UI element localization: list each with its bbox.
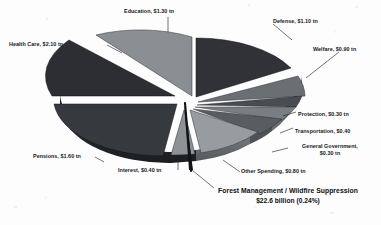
scan-speck — [355, 6, 358, 8]
label-protection: Protection, $0.30 tn — [298, 111, 349, 118]
scan-speck — [330, 212, 334, 214]
scan-speck — [14, 206, 17, 208]
leader-pensions — [95, 157, 104, 162]
annotation-line2: $22.6 billion (0.24%) — [196, 196, 380, 206]
scan-speck — [248, 4, 250, 6]
leader-general-government — [272, 148, 288, 152]
leader-other-spending — [223, 160, 240, 172]
slice-pensions[interactable] — [54, 104, 177, 156]
label-defense: Defense, $1.10 tn — [273, 18, 318, 25]
annotation-wildfire-suppression: Forest Management / Wildfire Suppression… — [196, 186, 380, 205]
pie-top-faces — [45, 30, 305, 171]
label-general-government-line2: $0.30 tn — [320, 150, 340, 156]
label-interest: Interest, $0.40 tn — [118, 167, 161, 174]
slice-interest[interactable] — [171, 110, 195, 155]
scan-speck — [46, 18, 48, 20]
leader-defense — [273, 24, 292, 40]
label-welfare: Welfare, $0.90 tn — [313, 46, 356, 53]
label-general-government-line1: General Government, — [302, 143, 358, 149]
annotation-line1: Forest Management / Wildfire Suppression — [196, 186, 380, 196]
label-other-spending: Other Spending, $0.80 tn — [241, 168, 306, 175]
label-transportation: Transportation, $0.40 — [295, 128, 350, 135]
leader-transportation — [280, 128, 293, 133]
label-education: Education, $1.30 tn — [124, 8, 174, 15]
label-general-government: General Government, $0.30 tn — [288, 143, 372, 158]
label-health-care: Health Care, $2.10 tn — [9, 41, 63, 48]
label-pensions: Pensions, $1.60 tn — [33, 153, 81, 160]
chart-canvas: Education, $1.30 tn Defense, $1.10 tn We… — [0, 0, 381, 225]
leader-welfare — [306, 52, 339, 78]
